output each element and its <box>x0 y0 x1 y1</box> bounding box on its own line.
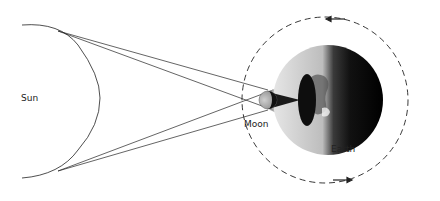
moon <box>259 91 277 109</box>
tangent-lines <box>58 31 273 171</box>
orbit-arrow-bottom <box>333 178 352 183</box>
sun-label: Sun <box>21 93 38 103</box>
moon-label: Moon <box>244 119 268 129</box>
earth-label: Earth <box>331 144 355 154</box>
eclipse-diagram <box>0 0 440 201</box>
